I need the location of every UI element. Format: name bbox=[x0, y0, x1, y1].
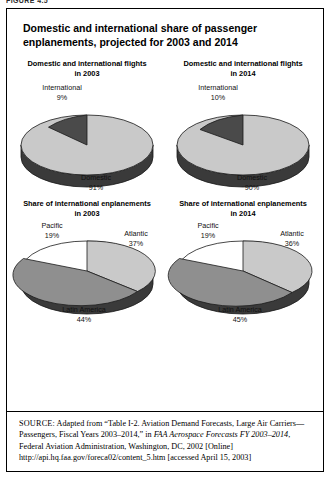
pie-label-value: 91% bbox=[61, 183, 131, 193]
pie-label-name: International bbox=[42, 83, 82, 92]
chart-title-line1: Share of international enplanements bbox=[179, 199, 307, 208]
pie-label-latin-america: Latin America 44% bbox=[43, 305, 125, 324]
figure-container: Domestic and international share of pass… bbox=[6, 8, 324, 472]
pie-label-value: 19% bbox=[25, 231, 79, 241]
chart-row-share: Share of international enplanements in 2… bbox=[9, 199, 321, 325]
pie-label-value: 36% bbox=[265, 239, 319, 249]
pie-label-name: Pacific bbox=[197, 221, 218, 230]
chart-title-line1: Share of international enplanements bbox=[23, 199, 151, 208]
pie-chart-share-2003: Pacific 19% Atlantic 37% Latin America 4… bbox=[9, 221, 165, 325]
pie-label-value: 90% bbox=[217, 183, 287, 193]
source-note: SOURCE: Adapted from “Table I-2. Aviatio… bbox=[7, 412, 323, 471]
pie-label-name: International bbox=[198, 83, 238, 92]
chart-title-flights-2003: Domestic and international flights in 20… bbox=[27, 59, 146, 79]
chart-flights-2014: Domestic and international flights in 20… bbox=[165, 59, 321, 199]
chart-title-flights-2014: Domestic and international flights in 20… bbox=[183, 59, 302, 79]
chart-title-line2: in 2014 bbox=[183, 69, 302, 79]
pie-label-name: Pacific bbox=[41, 221, 62, 230]
figure-title: Domestic and international share of pass… bbox=[7, 9, 323, 49]
pie-label-pacific: Pacific 19% bbox=[25, 221, 79, 240]
pie-label-name: Latin America bbox=[62, 305, 106, 314]
chart-row-flights: Domestic and international flights in 20… bbox=[9, 59, 321, 199]
pie-label-international: International 9% bbox=[27, 83, 97, 102]
pie-label-latin-america: Latin America 45% bbox=[199, 305, 281, 324]
chart-share-2003: Share of international enplanements in 2… bbox=[9, 199, 165, 325]
chart-share-2014: Share of international enplanements in 2… bbox=[165, 199, 321, 325]
charts-area: Domestic and international flights in 20… bbox=[7, 49, 323, 411]
pie-label-name: Domestic bbox=[237, 173, 267, 182]
pie-label-atlantic: Atlantic 37% bbox=[109, 229, 163, 248]
pie-label-value: 9% bbox=[27, 93, 97, 103]
pie-label-pacific: Pacific 19% bbox=[181, 221, 235, 240]
pie-label-domestic: Domestic 90% bbox=[217, 173, 287, 192]
figure-title-line1: Domestic and international share of pass… bbox=[23, 22, 257, 34]
source-italic-title: FAA Aerospace Forecasts FY 2003–2014 bbox=[154, 430, 288, 439]
pie-label-atlantic: Atlantic 36% bbox=[265, 229, 319, 248]
pie-label-name: Latin America bbox=[218, 305, 262, 314]
pie-label-international: International 10% bbox=[183, 83, 253, 102]
pie-label-name: Atlantic bbox=[124, 229, 148, 238]
chart-title-line1: Domestic and international flights bbox=[183, 59, 302, 68]
pie-label-name: Atlantic bbox=[280, 229, 304, 238]
pie-label-name: Domestic bbox=[81, 173, 111, 182]
pie-label-value: 37% bbox=[109, 239, 163, 249]
figure-title-line2: enplanements, projected for 2003 and 201… bbox=[23, 36, 238, 48]
chart-title-line2: in 2014 bbox=[179, 209, 307, 219]
pie-label-value: 44% bbox=[43, 315, 125, 325]
figure-number-label: FIGURE 4.5 bbox=[6, 0, 48, 4]
chart-title-line1: Domestic and international flights bbox=[27, 59, 146, 68]
pie-chart-share-2014: Pacific 19% Atlantic 36% Latin America 4… bbox=[165, 221, 321, 325]
chart-title-share-2003: Share of international enplanements in 2… bbox=[23, 199, 151, 219]
pie-label-domestic: Domestic 91% bbox=[61, 173, 131, 192]
chart-title-line2: in 2003 bbox=[27, 69, 146, 79]
pie-chart-flights-2003: International 9% Domestic 91% bbox=[9, 81, 165, 199]
pie-chart-flights-2014: International 10% Domestic 90% bbox=[165, 81, 321, 199]
pie-label-value: 45% bbox=[199, 315, 281, 325]
pie-label-value: 19% bbox=[181, 231, 235, 241]
pie-label-value: 10% bbox=[183, 93, 253, 103]
source-label: SOURCE: bbox=[19, 419, 55, 428]
chart-title-share-2014: Share of international enplanements in 2… bbox=[179, 199, 307, 219]
chart-flights-2003: Domestic and international flights in 20… bbox=[9, 59, 165, 199]
chart-title-line2: in 2003 bbox=[23, 209, 151, 219]
